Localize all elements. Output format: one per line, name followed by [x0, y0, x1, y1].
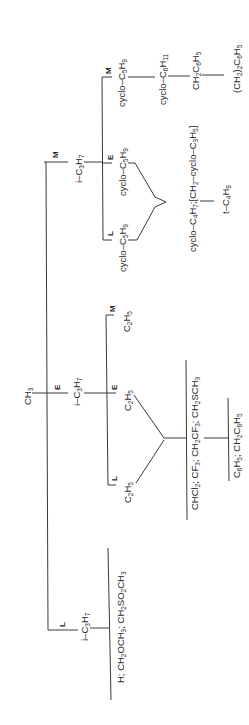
- node-t-c4h9: t–C4H9: [220, 185, 232, 214]
- l-branch: L i–C3H7 H; CH2OCH3; CH2SO2CH3: [58, 548, 127, 700]
- branch-tag-e: E: [53, 384, 62, 390]
- node-c2h5-l: C2H5: [122, 482, 134, 503]
- branch-tag-e: E: [106, 154, 115, 160]
- node-ch22c6h5: (CH2)2C6H5: [231, 44, 243, 93]
- branch-tag-l: L: [106, 231, 115, 236]
- node-l-list: H; CH2OCH3; CH2SO2CH3: [115, 571, 127, 683]
- branch-tag-l: L: [58, 622, 67, 627]
- node-i-c3h7-m: i–C3H7: [73, 154, 85, 183]
- node-m-merge: cyclo–C4H7;[CH2–cyclo–C3H5]: [187, 126, 199, 252]
- node-e-merge-next: C6H5; CH2C6H5: [231, 413, 243, 478]
- node-c2h5-m: C2H5: [121, 311, 133, 332]
- m-branch: M i–C3H7 M E L cyclo–C5H9 cyclo–C6H11 CH…: [51, 44, 243, 272]
- node-i-c3h7-e: i–C3H7: [71, 377, 83, 406]
- substituent-decision-tree: CH3 M i–C3H7 M E L cyclo–C5H9 cyclo–C6H1…: [0, 0, 249, 725]
- root-label: CH3: [22, 387, 34, 405]
- node-i-c3h7-l: i–C3H7: [79, 612, 91, 641]
- node-c2h5-e: C2H5: [122, 390, 134, 411]
- branch-tag-m: M: [104, 67, 113, 74]
- node-cyclo-c5h9-e: cyclo–C5H9: [117, 148, 129, 196]
- branch-tag-m: M: [51, 151, 60, 158]
- branch-tag-m: M: [108, 305, 117, 312]
- e-branch: E i–C3H7 M E L C2H5 C2H5 C2H5 CHCl2; CF3…: [53, 305, 243, 520]
- node-e-merge: CHCl2; CF3; CH2CF3; CH2SCH3: [189, 376, 201, 510]
- node-cyclo-c5h9-m: cyclo–C5H9: [116, 59, 128, 107]
- branch-tag-e: E: [110, 384, 119, 390]
- node-cyclo-c6h11: cyclo–C6H11: [157, 54, 169, 105]
- node-cyclo-c5h9-l: cyclo–C5H9: [117, 224, 129, 272]
- branch-tag-l: L: [110, 476, 119, 481]
- root-node: CH3: [22, 387, 34, 405]
- node-ch2c6h5: CH2C6H5: [190, 51, 202, 90]
